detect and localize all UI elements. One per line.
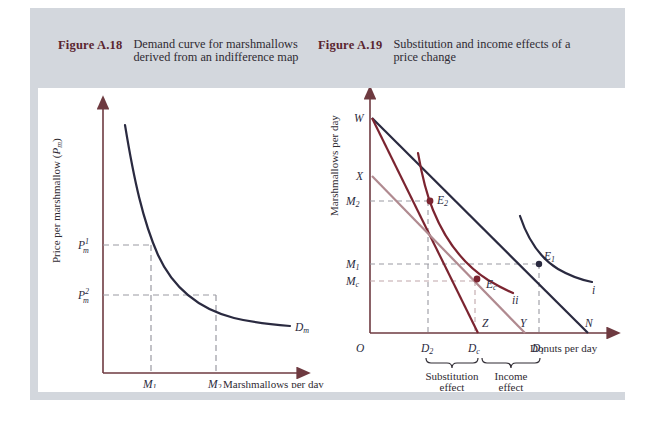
compensated-budget-line-xy [372, 176, 525, 333]
caption-number-a18: Figure A.18 [58, 38, 122, 53]
budget-line-wn [372, 118, 588, 333]
dashed-guides [103, 245, 216, 373]
point-label-e1: E1 [543, 250, 555, 264]
curve-label-i: i [592, 284, 595, 296]
caption-number-a19: Figure A.19 [318, 38, 382, 53]
y-tick-label-p1: P1m [77, 237, 89, 255]
origin-label-o: O [356, 342, 365, 354]
dashed-guides-compensated [370, 281, 475, 333]
point-label-e2: E2 [436, 194, 448, 208]
intercept-label-n: N [584, 317, 594, 329]
x-tick-label-m1: M1 [142, 378, 157, 388]
x-label-d2: D2 [420, 342, 433, 356]
intercept-label-y: Y [520, 317, 528, 329]
brace-label-income-line2: effect [499, 381, 524, 392]
brace-income [482, 358, 540, 368]
point-label-ec: Ec [485, 278, 497, 292]
chart-demand-curve: Price per marshmallow (Pm) Marshmallows … [38, 88, 328, 388]
point-e1 [536, 261, 542, 267]
x-label-dc: Dc [467, 342, 480, 356]
dashed-guides [370, 201, 539, 333]
point-e2 [427, 198, 434, 205]
intercept-label-z: Z [482, 317, 489, 329]
figure-page: Figure A.18 Demand curve for marshmallow… [0, 0, 655, 431]
x-axis-title: Marshmallows per day [223, 378, 324, 388]
y-label-m1: M1 [345, 258, 360, 272]
caption-text-a18: Demand curve for marshmallows derived fr… [133, 38, 315, 65]
y-label-x: X [355, 170, 364, 182]
chart-substitution-income: Marshmallows per day Donuts per day O W … [320, 88, 625, 392]
brace-substitution [426, 358, 478, 368]
brace-label-substitution-line2: effect [440, 381, 465, 392]
y-axis-title: Price per marshmallow (Pm) [50, 138, 64, 263]
budget-line-wz [372, 118, 478, 333]
y-tick-label-p2: P2m [77, 287, 89, 305]
x-tick-label-m2: M2 [207, 378, 222, 388]
y-label-m2: M2 [345, 195, 360, 209]
y-axis-title: Marshmallows per day [328, 115, 340, 216]
caption-text-a19: Substitution and income effects of a pri… [393, 38, 593, 65]
caption-figure-a19: Figure A.19 Substitution and income effe… [318, 38, 593, 65]
curve-label-ii: ii [512, 294, 518, 306]
curve-label-dm: Dm [294, 321, 309, 335]
demand-curve-dm [125, 125, 290, 326]
indifference-curve-i [520, 216, 592, 282]
point-ec [474, 276, 481, 283]
y-label-mc: Mc [345, 275, 360, 289]
y-label-w: W [354, 112, 365, 124]
caption-figure-a18: Figure A.18 Demand curve for marshmallow… [58, 38, 315, 65]
